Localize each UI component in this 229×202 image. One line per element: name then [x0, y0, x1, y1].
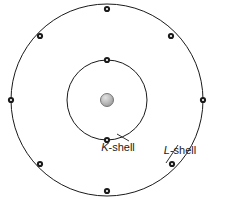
electron-l-shell-6: [37, 161, 43, 167]
nucleus: [101, 94, 114, 107]
l-shell-label: L-shell: [164, 144, 196, 156]
electron-l-shell-7: [8, 97, 14, 103]
l-shell-suffix: -shell: [170, 144, 196, 156]
k-shell-suffix: -shell: [109, 141, 135, 153]
electron-l-shell-3: [200, 97, 206, 103]
electron-l-shell-1: [104, 6, 110, 12]
electron-l-shell-4: [169, 161, 175, 167]
atom-diagram-canvas: K-shellL-shell: [0, 0, 229, 202]
electron-l-shell-5: [104, 188, 110, 194]
electron-l-shell-2: [168, 33, 174, 39]
atom-shell-svg: K-shellL-shell: [0, 0, 229, 202]
diagram-background: [0, 0, 229, 202]
electron-l-shell-8: [37, 33, 43, 39]
electron-k-shell-1: [104, 57, 110, 63]
k-shell-label: K-shell: [101, 141, 135, 153]
